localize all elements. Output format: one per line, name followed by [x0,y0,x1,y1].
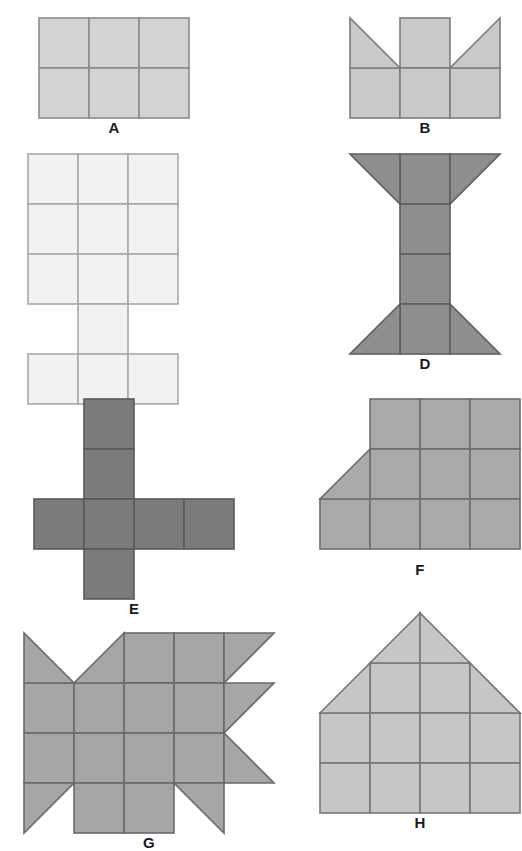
unit-square [84,499,134,549]
unit-triangle [350,304,400,354]
unit-square [470,449,520,499]
unit-square [320,763,370,813]
unit-square [84,399,134,449]
unit-triangle [224,683,274,733]
unit-square [370,499,420,549]
unit-triangle [370,613,420,663]
unit-square [400,254,450,304]
unit-square [139,68,189,118]
figure-shape-c [26,152,180,406]
figure-label-h: H [414,815,425,830]
unit-triangle [450,304,500,354]
figure-c: C [26,152,180,421]
unit-square [39,18,89,68]
unit-square [78,254,128,304]
unit-square [350,68,400,118]
figure-f: F [318,397,522,577]
figure-g: G [22,631,276,850]
unit-square [124,783,174,833]
figure-shape-f [318,397,522,551]
figure-shape-e [32,397,236,601]
figure-label-d: D [419,356,430,371]
unit-square [78,154,128,204]
unit-square [34,499,84,549]
unit-triangle [350,154,400,204]
unit-square [124,633,174,683]
unit-square [89,68,139,118]
unit-triangle [320,449,370,499]
unit-square [370,449,420,499]
unit-square [74,783,124,833]
unit-square [78,304,128,354]
figure-shape-a [37,16,191,120]
unit-square [24,683,74,733]
unit-square [400,204,450,254]
figure-shape-d [348,152,502,356]
unit-square [370,763,420,813]
unit-square [320,499,370,549]
unit-square [89,18,139,68]
unit-square [84,449,134,499]
unit-square [470,763,520,813]
figure-label-b: B [419,120,430,135]
figure-shape-b [348,16,502,120]
unit-square [470,499,520,549]
unit-square [400,18,450,68]
unit-square [28,154,78,204]
figure-label-a: A [108,120,119,135]
figure-label-g: G [143,835,155,850]
unit-square [420,399,470,449]
figure-h: H [318,611,522,830]
unit-triangle [174,783,224,833]
unit-square [420,713,470,763]
unit-triangle [74,633,124,683]
figure-shape-h [318,611,522,815]
unit-triangle [420,613,470,663]
unit-square [420,763,470,813]
figure-shape-g [22,631,276,835]
figure-e: E [32,397,236,616]
unit-square [134,499,184,549]
unit-square [470,399,520,449]
unit-square [450,68,500,118]
unit-triangle [450,18,500,68]
unit-square [320,713,370,763]
unit-square [74,733,124,783]
unit-square [400,304,450,354]
unit-square [24,733,74,783]
unit-triangle [470,663,520,713]
unit-square [124,683,174,733]
figure-label-e: E [129,601,139,616]
unit-square [400,154,450,204]
unit-triangle [320,663,370,713]
unit-square [84,549,134,599]
unit-square [139,18,189,68]
unit-square [174,633,224,683]
unit-square [124,733,174,783]
unit-triangle [450,154,500,204]
unit-triangle [24,633,74,683]
unit-square [420,449,470,499]
figure-label-f: F [415,562,424,577]
unit-square [370,713,420,763]
unit-triangle [24,783,74,833]
unit-square [420,663,470,713]
unit-square [39,68,89,118]
unit-square [400,68,450,118]
unit-square [74,683,124,733]
figure-a: A [37,16,191,135]
unit-square [420,499,470,549]
unit-square [78,204,128,254]
unit-triangle [224,733,274,783]
unit-square [28,204,78,254]
unit-square [28,254,78,304]
unit-square [128,154,178,204]
figure-d: D [348,152,502,371]
unit-square [128,204,178,254]
unit-square [174,683,224,733]
unit-square [184,499,234,549]
unit-square [370,399,420,449]
unit-square [128,254,178,304]
unit-triangle [224,633,274,683]
figure-b: B [348,16,502,135]
